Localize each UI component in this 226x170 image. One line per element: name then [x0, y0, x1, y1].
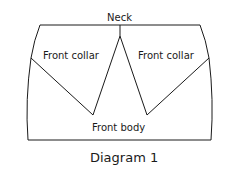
neck-label: Neck — [107, 13, 132, 23]
body-label: Front body — [92, 123, 145, 133]
left-collar-label: Front collar — [43, 51, 99, 61]
diagram-caption: Diagram 1 — [90, 151, 158, 164]
right-collar-label: Front collar — [138, 51, 194, 61]
right-collar-line — [120, 36, 209, 115]
left-collar-line — [31, 36, 120, 115]
garment-pattern-diagram — [0, 0, 226, 170]
